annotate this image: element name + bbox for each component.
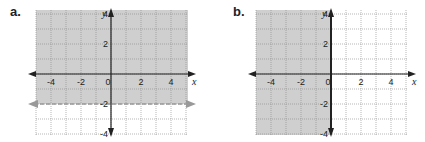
x-tick-label: 2 bbox=[138, 77, 143, 87]
y-tick-label: -2 bbox=[320, 99, 328, 109]
x-tick-label: -2 bbox=[297, 77, 305, 87]
x-tick-label: 4 bbox=[168, 77, 173, 87]
y-axis-label: y bbox=[321, 8, 327, 19]
x-axis-label: x bbox=[411, 76, 417, 87]
x-tick-label: -2 bbox=[77, 77, 85, 87]
charts-canvas: -4-202442-2-4xy-4-202442-2-4xy bbox=[0, 0, 425, 142]
graph-b: -4-202442-2-4xy bbox=[248, 8, 417, 139]
x-axis-label: x bbox=[191, 76, 197, 87]
y-tick-label: -4 bbox=[100, 129, 108, 139]
x-tick-label: 2 bbox=[358, 77, 363, 87]
x-axis-left-arrow-icon bbox=[28, 71, 36, 77]
x-tick-label: -4 bbox=[47, 77, 55, 87]
x-tick-label: 0 bbox=[105, 77, 110, 87]
x-axis-left-arrow-icon bbox=[248, 71, 256, 77]
y-tick-label: -4 bbox=[320, 129, 328, 139]
x-tick-label: 0 bbox=[325, 77, 330, 87]
y-axis-label: y bbox=[101, 8, 107, 19]
shaded-region bbox=[36, 10, 188, 104]
boundary-right-arrow-icon bbox=[186, 100, 196, 108]
y-tick-label: 2 bbox=[323, 39, 328, 49]
boundary-left-arrow-icon bbox=[28, 100, 38, 108]
y-tick-label: 2 bbox=[103, 39, 108, 49]
y-axis-down-arrow-icon bbox=[108, 128, 114, 137]
x-tick-label: 4 bbox=[388, 77, 393, 87]
x-tick-label: -4 bbox=[267, 77, 275, 87]
graph-a: -4-202442-2-4xy bbox=[28, 8, 197, 139]
shaded-region bbox=[256, 10, 331, 135]
y-tick-label: -2 bbox=[100, 99, 108, 109]
